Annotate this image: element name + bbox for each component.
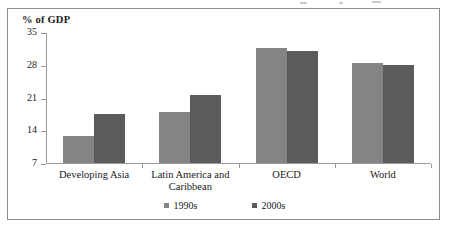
category-label-1: Developing Asia (46, 169, 142, 181)
bar-2000s-1 (94, 114, 125, 163)
bar-1990s-3 (256, 48, 287, 163)
scan-speck (339, 2, 343, 4)
legend-item-2000s[interactable]: 2000s (252, 200, 286, 211)
scan-artifact-strip (0, 0, 449, 7)
y-axis-line (46, 33, 47, 164)
chart-figure-frame: % of GDP 352821147 Developing AsiaLatin … (7, 8, 440, 220)
chart-legend: 1990s2000s (8, 200, 441, 211)
scan-speck (372, 1, 381, 3)
legend-label-2000s: 2000s (262, 200, 286, 211)
category-label-3: OECD (239, 169, 335, 181)
y-tick-label-14: 14 (27, 124, 37, 135)
y-tick-35: 35 (41, 33, 46, 34)
bar-2000s-3 (287, 51, 318, 163)
y-tick-label-7: 7 (32, 157, 37, 168)
y-tick-7: 7 (41, 164, 46, 165)
bar-2000s-4 (383, 65, 414, 163)
y-tick-28: 28 (41, 66, 46, 67)
legend-item-1990s[interactable]: 1990s (164, 200, 198, 211)
y-tick-21: 21 (41, 99, 46, 100)
x-tick-2 (239, 164, 240, 168)
legend-swatch-icon-1990s (164, 203, 169, 208)
y-tick-14: 14 (41, 131, 46, 132)
x-tick-4 (431, 164, 432, 168)
bar-2000s-2 (190, 95, 221, 163)
y-axis-title: % of GDP (22, 14, 70, 25)
x-tick-3 (335, 164, 336, 168)
plot-area: 352821147 Developing AsiaLatin America a… (46, 33, 431, 164)
y-tick-label-35: 35 (27, 26, 37, 37)
bar-1990s-2 (159, 112, 190, 163)
y-tick-label-28: 28 (27, 59, 37, 70)
scan-speck (300, 2, 307, 4)
legend-swatch-icon-2000s (252, 203, 257, 208)
bar-1990s-1 (63, 136, 94, 163)
bar-1990s-4 (352, 63, 383, 163)
category-label-4: World (335, 169, 431, 181)
x-tick-1 (142, 164, 143, 168)
legend-label-1990s: 1990s (174, 200, 198, 211)
y-tick-label-21: 21 (27, 92, 37, 103)
category-label-2: Latin America and Caribbean (142, 169, 238, 193)
